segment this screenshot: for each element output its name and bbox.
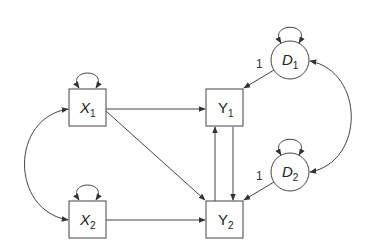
- covariance-x1-x2: [25, 109, 69, 220]
- loading-label-d1-y1: 1: [256, 57, 263, 71]
- path-d1-y1: [244, 70, 274, 88]
- variance-loop-x1: [77, 73, 99, 88]
- variance-loop-x2: [77, 185, 99, 200]
- path-d2-y2: [244, 182, 274, 200]
- path-x1-y2: [106, 111, 205, 200]
- path-diagram: X1 X2 Y1 Y2 D1 D2 1 1: [0, 0, 373, 252]
- covariance-d1-d2: [310, 61, 351, 172]
- loading-label-d2-y2: 1: [256, 169, 263, 183]
